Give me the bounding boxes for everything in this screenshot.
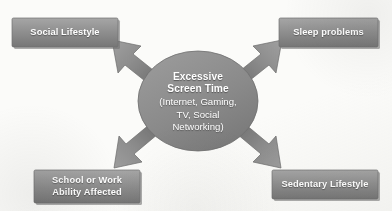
box-label-sleep-problems[interactable]: Sleep problems [279, 18, 378, 47]
diagram-canvas: Social Lifestyle Sleep problems School o… [0, 0, 392, 211]
box-label-sedentary-lifestyle[interactable]: Sedentary Lifestyle [272, 170, 378, 199]
box-label-social-lifestyle[interactable]: Social Lifestyle [12, 18, 118, 47]
center-ellipse [138, 51, 258, 151]
box-label-school-or-work[interactable]: School or Work Ability Affected [34, 170, 140, 203]
